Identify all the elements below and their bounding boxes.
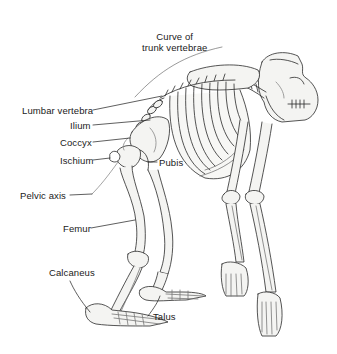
hand-far (257, 292, 282, 336)
label-coccyx: Coccyx (60, 137, 92, 148)
label-calcaneus: Calcaneus (49, 267, 95, 278)
leader-femur (91, 220, 135, 228)
label-ischium: Ischium (60, 155, 93, 166)
skeleton-diagram: Curve of trunk vertebrae Lumbar vertebra… (0, 0, 337, 354)
elbow-near (222, 190, 240, 204)
leader-ischium (93, 158, 110, 160)
hind-leg-right (148, 170, 173, 274)
skeleton-illustration (0, 0, 337, 354)
forearm-far (250, 204, 276, 292)
label-curve-line2: trunk vertebrae (142, 42, 207, 53)
label-curve-line1: Curve of (142, 31, 207, 42)
femur-bone (120, 166, 145, 258)
forearm-near (226, 204, 244, 262)
pelvic-axis-line (92, 162, 118, 194)
label-lumbar-vertebra: Lumbar vertebra (22, 105, 93, 116)
label-curve-of-trunk-vertebrae: Curve of trunk vertebrae (142, 31, 207, 53)
label-femur: Femur (63, 223, 91, 234)
leader-coccyx (93, 138, 130, 142)
humerus-far (248, 122, 272, 198)
hind-foot-right (139, 286, 206, 301)
elbow-far (245, 190, 264, 204)
label-ilium: Ilium (70, 120, 91, 131)
knee (127, 251, 148, 268)
label-pelvic-axis: Pelvic axis (20, 190, 66, 201)
leader-pelvic-axis (70, 194, 92, 195)
scapula (187, 65, 259, 90)
label-talus: Talus (153, 311, 176, 322)
hand-near (221, 262, 248, 296)
label-pubis: Pubis (159, 157, 183, 168)
skull (258, 53, 318, 122)
